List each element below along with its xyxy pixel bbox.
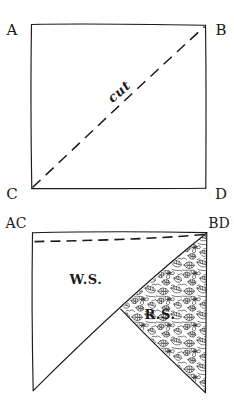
cut-dashed-line [33,27,205,188]
fold-dashed-line [35,234,205,241]
corner-label-d: D [215,185,227,203]
corner-label-c: C [6,185,18,203]
corner-label-a: A [5,21,17,39]
square-edge-right [206,25,207,188]
folded-edge-top [33,232,207,233]
folded-edge-left [32,233,33,391]
square-edge-left [31,25,32,189]
cut-label: cut [105,78,134,106]
wrong-side-label: W.S. [69,272,103,287]
bottom-folded-figure: AC BD W.S. R.S. [5,215,230,403]
top-square-figure: A B C D cut [5,21,227,203]
cut-label-group: cut [105,78,134,106]
corner-label-bd: BD [208,215,230,231]
corner-label-ac: AC [5,215,27,231]
square-edge-top [32,24,206,25]
diagram-canvas: A B C D cut [0,0,234,417]
right-side-label: R.S. [144,307,175,322]
corner-label-b: B [215,21,226,39]
sewing-diagram-root: A B C D cut [0,0,234,417]
